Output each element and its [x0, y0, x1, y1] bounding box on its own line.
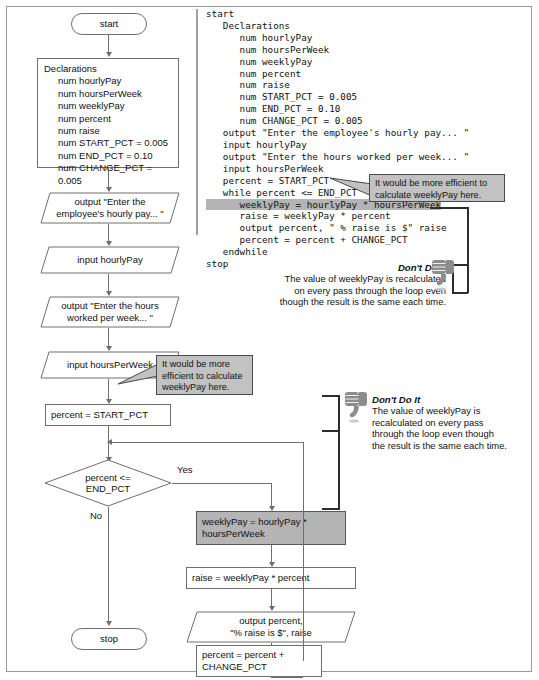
process-label: raise = weeklyPay * percent — [192, 572, 310, 584]
declaration-item: num percent — [44, 113, 172, 125]
process-label: weeklyPay = hourlyPay * hoursPerWeek — [202, 516, 307, 540]
code-line: output "Enter the hours worked per week.… — [206, 151, 469, 162]
code-line: percent = START_PCT — [206, 175, 329, 186]
io-label: input hourlyPay — [40, 246, 180, 274]
dont-do-it-code: Don't Do It The value of weeklyPay is re… — [216, 262, 446, 308]
io-output-prompt-hours: output "Enter the hours worked per week.… — [40, 296, 180, 328]
loop-back-bottom — [271, 677, 303, 678]
thumbs-down-icon — [432, 259, 454, 293]
declaration-item: num hoursPerWeek — [44, 88, 172, 100]
chart-bracket-top — [322, 395, 339, 397]
no-branch-vertical — [108, 507, 109, 623]
yes-branch-horizontal — [172, 483, 271, 484]
code-line: start — [206, 8, 234, 19]
declarations-header: Declarations — [44, 63, 172, 75]
decision-yes-label: Yes — [177, 464, 193, 475]
code-line: num CHANGE_PCT = 0.005 — [206, 115, 363, 126]
dont-do-it-body: The value of weeklyPay is recalculated o… — [372, 405, 522, 451]
code-line: input hoursPerWeek — [206, 163, 324, 174]
process-assign-weekly-pay: weeklyPay = hourlyPay * hoursPerWeek — [196, 511, 346, 545]
declaration-item: num weeklyPay — [44, 100, 172, 112]
chart-bracket-bottom — [322, 508, 339, 510]
code-line: input hourlyPay — [206, 139, 307, 150]
code-bracket-arm — [452, 264, 468, 266]
process-assign-percent-start: percent = START_PCT — [45, 404, 171, 426]
code-line: raise = weeklyPay * percent — [206, 210, 391, 221]
chart-bracket-vertical — [338, 395, 340, 510]
code-line: num percent — [206, 68, 301, 79]
chart-bracket-arm-top — [322, 430, 339, 432]
connector-output2-to-input2 — [108, 328, 109, 348]
arrow-left — [107, 439, 112, 445]
io-input-hourly-pay: input hourlyPay — [40, 246, 180, 274]
pseudocode-block: start Declarations num hourlyPay num hou… — [206, 8, 506, 270]
terminal-start: start — [71, 13, 147, 35]
declaration-item: num raise — [44, 125, 172, 137]
flowchart-pseudocode-figure: start Declarations num hourlyPay num hou… — [0, 0, 539, 680]
code-line: num weeklyPay — [206, 56, 312, 67]
code-line: num hoursPerWeek — [206, 44, 329, 55]
connector-declarations-to-output1 — [108, 168, 109, 189]
code-line: endwhile — [206, 246, 268, 257]
terminal-stop: stop — [71, 628, 147, 650]
decision-percent-le-end-pct: percent <= END_PCT — [44, 459, 172, 507]
declaration-item: num hourlyPay — [44, 75, 172, 87]
thumbs-down-icon — [345, 391, 367, 425]
code-line: Declarations — [206, 20, 290, 31]
code-line: num START_PCT = 0.005 — [206, 91, 357, 102]
chart-callout: It would be more efficient to calculate … — [156, 355, 253, 395]
io-label: output percent, "% raise is $", raise — [186, 611, 356, 643]
io-output-prompt-hourly-pay: output "Enter the employee's hourly pay.… — [40, 192, 180, 224]
arrow-down — [106, 621, 112, 626]
arrow-down — [106, 52, 112, 57]
process-label: percent = percent + CHANGE_PCT — [202, 649, 284, 673]
code-line: percent = percent + CHANGE_PCT — [206, 234, 408, 245]
code-callout: It would be more efficient to calculate … — [369, 174, 505, 202]
yes-branch-vertical — [271, 483, 272, 508]
code-bracket-top — [430, 207, 468, 209]
code-line: output percent, " % raise is $" raise — [206, 222, 447, 233]
code-line: output "Enter the employee's hourly pay.… — [206, 127, 469, 138]
loop-back-vertical — [303, 442, 304, 661]
code-line: num raise — [206, 79, 290, 90]
code-bracket-bottom — [452, 292, 468, 294]
connector-input2-to-assign — [108, 379, 109, 401]
terminal-start-label: start — [100, 18, 118, 30]
declarations-box: Declarations num hourlyPay num hoursPerW… — [37, 58, 179, 168]
process-assign-raise: raise = weeklyPay * percent — [186, 567, 356, 589]
io-output-raise: output percent, "% raise is $", raise — [186, 611, 356, 643]
code-line: num END_PCT = 0.10 — [206, 103, 340, 114]
io-label: output "Enter the hours worked per week.… — [40, 296, 180, 328]
process-label: percent = START_PCT — [51, 409, 148, 421]
dont-do-it-title: Don't Do It — [216, 262, 446, 273]
terminal-stop-label: stop — [100, 633, 118, 645]
loop-back-horizontal — [108, 442, 303, 443]
io-label: output "Enter the employee's hourly pay.… — [40, 192, 180, 224]
loop-back-bottom-stub — [271, 677, 272, 678]
declaration-item: num START_PCT = 0.005 — [44, 137, 172, 149]
declaration-item: num END_PCT = 0.10 — [44, 150, 172, 162]
code-bracket-vertical — [467, 207, 469, 293]
dont-do-it-chart: Don't Do It The value of weeklyPay is re… — [372, 394, 522, 451]
code-line: num hourlyPay — [206, 32, 312, 43]
pseudocode-panel: start Declarations num hourlyPay num hou… — [206, 8, 506, 270]
dont-do-it-body: The value of weeklyPay is recalculated o… — [216, 273, 446, 308]
decision-no-label: No — [90, 510, 102, 521]
code-panel-divider — [196, 9, 198, 235]
dont-do-it-title: Don't Do It — [372, 394, 522, 405]
decision-label: percent <= END_PCT — [44, 459, 172, 507]
